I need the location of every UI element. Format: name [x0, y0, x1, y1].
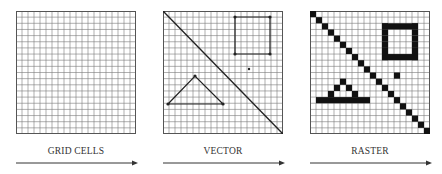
arrow-right-icon: [163, 158, 285, 168]
raster-panel: [310, 11, 430, 134]
vector-label: VECTOR: [163, 146, 283, 156]
vector-panel: [163, 11, 283, 134]
grid-cells-label: GRID CELLS: [16, 146, 136, 156]
raster-label: RASTER: [310, 146, 430, 156]
arrow-right-icon: [310, 158, 432, 168]
grid-cells-panel: [16, 11, 136, 134]
raster-grid: [310, 11, 430, 134]
empty-grid: [16, 11, 136, 134]
vector-grid: [163, 11, 283, 134]
arrow-right-icon: [16, 158, 138, 168]
